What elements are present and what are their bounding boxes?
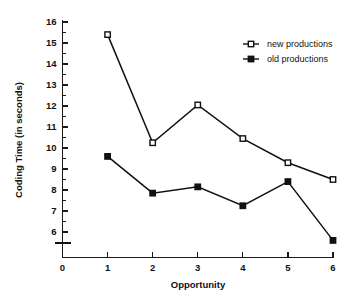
data-point: [105, 154, 110, 159]
y-tick-label-8: 8: [51, 184, 56, 195]
data-point: [195, 184, 200, 189]
y-axis-ticks: [63, 22, 69, 232]
x-tick-label-3: 3: [195, 262, 200, 273]
x-axis-ticks: [63, 252, 334, 258]
data-point: [150, 190, 155, 195]
y-axis-group: 678910111213141516 Coding Time (in secon…: [13, 16, 71, 258]
data-point: [240, 203, 245, 208]
y-tick-label-16: 16: [46, 16, 57, 27]
legend-label: new productions: [267, 39, 333, 49]
chart-canvas: 678910111213141516 Coding Time (in secon…: [0, 0, 348, 298]
x-axis-group: 0123456 Opportunity: [60, 252, 336, 290]
legend-item-new-productions[interactable]: new productions: [243, 39, 333, 49]
data-point: [195, 102, 200, 107]
data-point: [285, 160, 290, 165]
x-axis-title: Opportunity: [171, 279, 226, 290]
x-axis-tick-labels: 0123456: [60, 262, 336, 273]
y-tick-label-6: 6: [51, 226, 56, 237]
line-chart: 678910111213141516 Coding Time (in secon…: [0, 0, 348, 298]
x-tick-label-1: 1: [105, 262, 111, 273]
x-tick-label-2: 2: [150, 262, 155, 273]
data-point: [330, 238, 335, 243]
y-tick-label-10: 10: [46, 142, 57, 153]
y-tick-label-15: 15: [46, 37, 57, 48]
data-point: [105, 32, 110, 37]
y-tick-label-11: 11: [46, 121, 57, 132]
legend-swatch-marker: [248, 56, 253, 61]
x-tick-label-4: 4: [240, 262, 246, 273]
y-tick-label-14: 14: [46, 58, 57, 69]
y-tick-label-9: 9: [51, 163, 56, 174]
data-point: [240, 136, 245, 141]
series-line: [108, 156, 333, 240]
x-tick-label-0: 0: [60, 262, 65, 273]
y-tick-label-13: 13: [46, 79, 57, 90]
x-tick-label-5: 5: [285, 262, 291, 273]
y-axis-tick-labels: 678910111213141516: [46, 16, 57, 237]
data-point: [150, 140, 155, 145]
x-tick-label-6: 6: [330, 262, 335, 273]
legend-item-old-productions[interactable]: old productions: [243, 54, 329, 64]
y-tick-label-12: 12: [46, 100, 57, 111]
y-tick-label-7: 7: [51, 205, 56, 216]
data-point: [285, 179, 290, 184]
data-point: [330, 177, 335, 182]
y-axis-title: Coding Time (in seconds): [13, 82, 24, 198]
legend-label: old productions: [267, 54, 329, 64]
legend-swatch-marker: [248, 41, 253, 46]
chart-legend: new productionsold productions: [243, 39, 333, 64]
